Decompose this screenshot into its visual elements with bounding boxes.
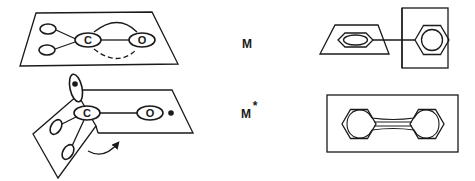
aromatic-ring-circle (422, 30, 443, 51)
excited-state-label: M (241, 107, 251, 121)
rotation-arrow-icon (88, 143, 118, 154)
ground-state-label: M (242, 37, 252, 51)
ground-state-carbonyl: C O (20, 12, 178, 66)
vertical-plane (402, 8, 448, 68)
substituent-orbital (39, 45, 55, 55)
pi-orbital-lower-dashed (94, 49, 137, 59)
carbon-label: C (83, 107, 91, 119)
pi-orbital-upper (94, 23, 137, 33)
excited-state-superscript: * (253, 99, 258, 113)
substituent-orbital (48, 118, 65, 137)
conjugated-orbital (347, 110, 439, 138)
bond (72, 120, 84, 146)
unpaired-electron (72, 81, 78, 87)
carbon-p-orbital (67, 73, 85, 103)
unpaired-electron (168, 110, 174, 116)
excited-state-biphenyl (327, 95, 458, 152)
oxygen-label: O (146, 107, 155, 119)
oxygen-label: O (138, 34, 147, 46)
carbon-label: C (84, 34, 92, 46)
diagram-canvas: C O C O M M * (0, 0, 475, 181)
substituent-orbital (40, 24, 56, 34)
bond (55, 41, 78, 49)
ground-state-biphenyl (320, 8, 449, 68)
excited-state-carbonyl: C O (33, 73, 193, 178)
aromatic-ring-circle (344, 35, 368, 45)
substituent-orbital (60, 143, 77, 162)
